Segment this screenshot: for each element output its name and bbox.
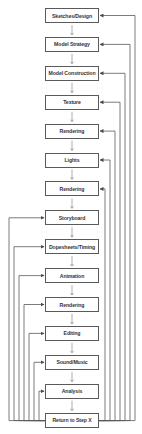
step-box-model-construction: Model Construction [45,66,99,81]
step-box-model-strategy: Model Strategy [45,37,99,52]
step-box-texture: Texture [45,95,99,110]
step-box-return-to-step-x: Return to Step X [45,413,99,428]
down-arrow [71,314,74,324]
step-box-sound-music: Sound/Music [45,355,99,370]
down-arrow [71,256,74,266]
step-box-editing: Editing [45,326,99,341]
down-arrow [71,141,74,151]
loop-arrow-right [99,73,125,420]
loop-arrow-left [29,333,45,420]
step-box-sketches-design: Sketches/Design [45,8,99,23]
step-box-storyboard: Storyboard [45,210,99,225]
loop-arrow-right [99,102,120,420]
loop-arrow-left [19,276,45,421]
down-arrow [71,372,74,382]
down-arrow [71,54,74,64]
down-arrow [71,112,74,122]
down-arrow [71,198,74,208]
down-arrow [71,285,74,295]
down-arrow [71,227,74,237]
loop-arrow-right [99,131,115,421]
loop-arrow-right [99,189,105,421]
down-arrow [71,83,74,93]
down-arrow [71,170,74,180]
down-arrow [71,25,74,35]
loop-arrow-right [99,160,110,421]
step-box-analysis: Analysis [45,384,99,399]
step-box-rendering: Rendering [45,297,99,312]
step-box-animation: Animation [45,268,99,283]
step-box-rendering: Rendering [45,124,99,139]
step-box-dopesheets-timing: Dopesheets/Timing [45,239,99,254]
step-box-lights: Lights [45,153,99,168]
down-arrow [71,343,74,353]
down-arrow [71,401,74,411]
step-box-rendering: Rendering [45,181,99,196]
